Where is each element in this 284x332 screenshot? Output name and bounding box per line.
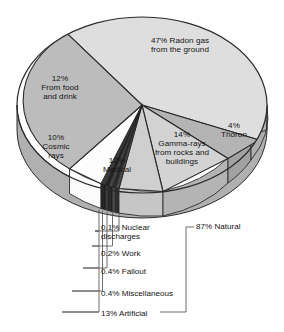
callout-label-nuclear-discharges: 0.1% Nuclear discharges xyxy=(101,223,177,242)
callout-label-natural: 87% Natural xyxy=(196,222,282,231)
callout-label-work: 0.2% Work xyxy=(101,249,177,258)
pie-chart-graphic xyxy=(0,0,284,332)
pie-chart-figure: 47% Radon gas from the ground 12% From f… xyxy=(0,0,284,332)
callout-label-fallout: 0.4% Fallout xyxy=(101,267,187,276)
callout-label-artificial: 13% Artificial xyxy=(101,309,185,318)
callout-label-miscellaneous: 0.4% Miscellaneous xyxy=(101,289,205,298)
